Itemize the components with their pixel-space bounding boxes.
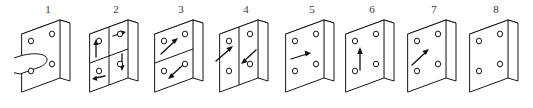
- panel-label-3: 3: [147, 3, 215, 16]
- mount-hole: [292, 38, 297, 44]
- plate-figure-5: [278, 16, 346, 104]
- plate-figure-4: [212, 16, 280, 104]
- panel-label-6: 6: [338, 3, 406, 16]
- diagram-panel-6: 6: [338, 0, 406, 108]
- mount-hole: [247, 61, 252, 67]
- mount-hole: [435, 31, 440, 37]
- mount-hole: [352, 68, 357, 74]
- mount-hole: [414, 68, 419, 74]
- mount-hole: [117, 61, 122, 67]
- mount-hole: [226, 38, 231, 44]
- panel-label-8: 8: [462, 3, 530, 16]
- mount-hole: [352, 38, 357, 44]
- mount-hole: [161, 68, 166, 74]
- mount-hole: [247, 31, 252, 37]
- mount-hole: [96, 68, 101, 74]
- mount-hole: [226, 68, 231, 74]
- diagram-canvas: 1 2: [0, 0, 533, 108]
- mount-hole: [435, 61, 440, 67]
- panel-label-1: 1: [14, 3, 82, 16]
- mount-hole: [182, 31, 187, 37]
- plate-figure-2: [82, 16, 150, 104]
- mount-hole: [292, 68, 297, 74]
- plate-figure-3: [147, 16, 215, 104]
- mount-hole: [414, 38, 419, 44]
- diagram-panel-2: 2: [82, 0, 150, 108]
- diagram-panel-8: 8: [462, 0, 530, 108]
- panel-label-4: 4: [212, 3, 280, 16]
- mount-hole: [161, 38, 166, 44]
- panel-label-7: 7: [400, 3, 468, 16]
- plate-figure-1: [14, 16, 82, 104]
- mount-hole: [117, 31, 122, 37]
- diagram-panel-1: 1: [14, 0, 82, 108]
- mount-hole: [373, 31, 378, 37]
- mount-hole: [28, 68, 33, 74]
- plate-figure-6: [338, 16, 406, 104]
- diagram-panel-4: 4: [212, 0, 280, 108]
- diagram-panel-5: 5: [278, 0, 346, 108]
- mount-hole: [476, 38, 481, 44]
- panel-label-2: 2: [82, 3, 150, 16]
- mount-hole: [373, 61, 378, 67]
- mount-hole: [313, 61, 318, 67]
- panel-label-5: 5: [278, 3, 346, 16]
- mount-hole: [28, 38, 33, 44]
- diagram-panel-3: 3: [147, 0, 215, 108]
- plate-figure-8: [462, 16, 530, 104]
- mount-hole: [182, 61, 187, 67]
- mount-hole: [497, 31, 502, 37]
- mount-hole: [497, 61, 502, 67]
- mount-hole: [476, 68, 481, 74]
- mount-hole: [49, 31, 54, 37]
- mount-hole: [313, 31, 318, 37]
- plate-figure-7: [400, 16, 468, 104]
- diagram-panel-7: 7: [400, 0, 468, 108]
- mount-hole: [49, 61, 54, 67]
- mount-hole: [96, 38, 101, 44]
